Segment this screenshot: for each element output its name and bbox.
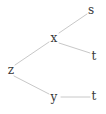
node-label-n_x: x	[51, 32, 58, 44]
edge-n_z-n_y	[14, 76, 49, 94]
node-label-n_t1: t	[92, 50, 97, 62]
node-label-n_t2: t	[92, 90, 97, 102]
tree-diagram-canvas: sxtzyt	[0, 0, 106, 114]
node-label-n_s: s	[88, 4, 94, 16]
edge-n_x-n_s	[59, 14, 87, 33]
node-label-n_z: z	[8, 64, 14, 76]
edge-n_x-n_t1	[59, 43, 90, 53]
edge-n_z-n_x	[15, 42, 49, 65]
edge-group	[14, 14, 90, 97]
node-label-n_y: y	[51, 91, 58, 103]
